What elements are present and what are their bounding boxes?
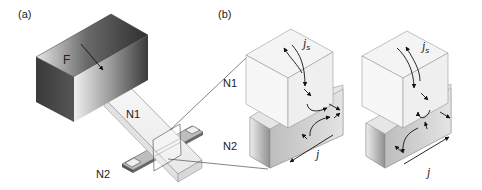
zoom-line-top — [170, 58, 246, 130]
n1-label-a: N1 — [126, 108, 140, 120]
panel-a-label: (a) — [18, 8, 31, 20]
n1-label-b: N1 — [223, 77, 237, 89]
diagram-canvas: (a) F N1 N2 (b) N1 N2 — [0, 0, 482, 190]
spin-current-label-left: js — [301, 36, 310, 52]
ferromagnet-label: F — [63, 53, 70, 67]
charge-current-label-left: j — [314, 147, 320, 161]
junction-right — [362, 31, 451, 168]
panel-b-label: (b) — [218, 8, 231, 20]
junction-left — [246, 29, 343, 168]
n2-label-b: N2 — [223, 140, 237, 152]
spin-current-label-right: js — [420, 39, 429, 55]
charge-current-label-right: j — [425, 165, 431, 179]
n2-label-a: N2 — [96, 168, 110, 180]
